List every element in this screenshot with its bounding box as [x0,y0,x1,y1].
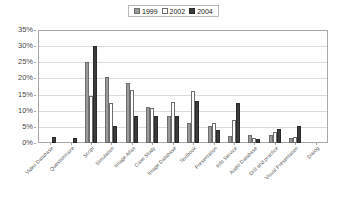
legend-entry-1999: 1999 [134,8,158,15]
legend-swatch-2002 [162,8,168,14]
bar-group [305,30,325,143]
bar-group [163,30,183,143]
bar-group [265,30,285,143]
x-label-cell: Image Database [163,144,183,198]
bar-group [183,30,203,143]
y-tick-mark [34,46,36,47]
legend-label-2004: 2004 [197,8,213,15]
x-label-cell: Visual Presentation [285,144,305,198]
bar-group [122,30,142,143]
bar-2004 [154,116,158,143]
bar-group [40,30,60,143]
bar-group [203,30,223,143]
y-tick-label: 35% [18,26,33,34]
y-tick-label: 30% [18,42,33,50]
legend-entry-2002: 2002 [162,8,186,15]
bar-group [244,30,264,143]
bar-group [224,30,244,143]
x-tick-label: Script [82,145,96,159]
bar-2004 [277,129,281,143]
bar-group [142,30,162,143]
y-tick-label: 0% [22,139,33,147]
x-axis-labels: Video DatabaseQuestionnaireScriptSimulat… [38,144,328,198]
bar-group [101,30,121,143]
bar-2004 [113,126,117,143]
bar-group [285,30,305,143]
x-label-cell: Dialog [305,144,325,198]
bar-2004 [195,101,199,143]
y-tick-mark [34,62,36,63]
x-tick-label: Video Database [24,145,54,175]
y-tick-label: 20% [18,74,33,82]
bar-2004 [93,46,97,143]
bar-2004 [175,116,179,143]
bar-2004 [256,139,260,143]
x-label-cell: Presentation [203,144,223,198]
y-tick-label: 25% [18,58,33,66]
bar-2004 [73,138,77,143]
bar-2004 [216,130,220,143]
y-tick-mark [34,95,36,96]
y-tick-mark [34,30,36,31]
y-tick-mark [34,78,36,79]
x-label-cell: Image Atlas [122,144,142,198]
legend-swatch-1999 [134,8,140,14]
bar-groups [38,30,328,143]
legend-label-1999: 1999 [142,8,158,15]
legend-swatch-2004 [189,8,195,14]
x-label-cell: Simulation [101,144,121,198]
legend-entry-2004: 2004 [189,8,213,15]
bar-2004 [297,126,301,143]
y-tick-mark [34,127,36,128]
x-label-cell: Script [81,144,101,198]
bar-group [60,30,80,143]
x-label-cell: Video Database [40,144,60,198]
y-tick-label: 5% [22,123,33,131]
chart-legend: 1999 2002 2004 [128,5,219,17]
y-tick-mark [34,111,36,112]
bar-2004 [52,137,56,143]
x-label-cell: Questionnaire [60,144,80,198]
y-tick-label: 15% [18,91,33,99]
bar-2004 [236,103,240,143]
bar-chart: 1999 2002 2004 35%30%25%20%15%10%5%0% Vi… [0,0,338,198]
bar-2004 [134,116,138,143]
y-tick-label: 10% [18,107,33,115]
bar-group [81,30,101,143]
x-tick-label: Dialog [305,145,320,160]
legend-label-2002: 2002 [170,8,186,15]
y-axis: 35%30%25%20%15%10%5%0% [0,30,36,143]
x-label-cell: Textbook [183,144,203,198]
y-tick-mark [34,143,36,144]
